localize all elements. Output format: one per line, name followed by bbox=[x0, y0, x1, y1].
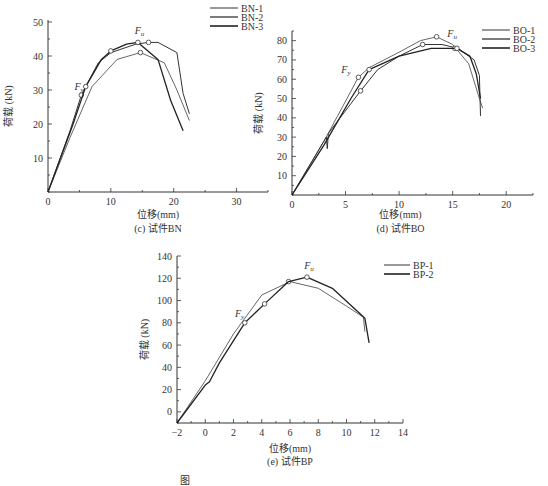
point-marker bbox=[420, 42, 425, 47]
series-bn-3 bbox=[48, 42, 183, 192]
x-tick-label: 20 bbox=[169, 196, 179, 207]
y-axis-title: 荷载 (kN) bbox=[3, 85, 15, 126]
point-marker bbox=[356, 75, 361, 80]
y-tick-label: 20 bbox=[33, 119, 43, 130]
annotation-fy: Fy bbox=[73, 81, 84, 94]
chart-bp: −202468101214020406080100120140位移(mm)荷载 … bbox=[139, 251, 434, 469]
x-tick-label: 15 bbox=[448, 199, 458, 210]
y-tick-label: 100 bbox=[157, 295, 172, 306]
legend-label: BO-3 bbox=[513, 43, 535, 54]
point-marker bbox=[138, 50, 143, 55]
x-tick-label: 12 bbox=[370, 427, 380, 438]
y-tick-label: 30 bbox=[33, 85, 43, 96]
legend-label: BN-3 bbox=[241, 21, 263, 32]
x-tick-label: 10 bbox=[342, 427, 352, 438]
series-bp-2 bbox=[177, 277, 369, 423]
legend-label: BP-2 bbox=[413, 269, 434, 280]
y-tick-label: 50 bbox=[33, 17, 43, 28]
point-marker bbox=[136, 40, 141, 45]
chart-caption: (d) 试件BO bbox=[376, 222, 424, 235]
annotation-fu: Fu bbox=[134, 25, 145, 38]
y-tick-label: 120 bbox=[157, 273, 172, 284]
x-tick-label: 8 bbox=[316, 427, 321, 438]
point-marker bbox=[305, 275, 310, 280]
y-tick-label: 40 bbox=[33, 51, 43, 62]
y-tick-label: 40 bbox=[277, 112, 287, 123]
y-tick-label: 70 bbox=[277, 54, 287, 65]
x-axis-title: 位移(mm) bbox=[269, 442, 311, 455]
x-tick-label: 0 bbox=[46, 196, 51, 207]
figure-canvas: 01020301020304050位移(mm)荷载 (kN)(c) 试件BNBN… bbox=[0, 0, 548, 486]
point-marker bbox=[146, 40, 151, 45]
x-tick-label: 20 bbox=[501, 199, 511, 210]
figure-caption: 图 bbox=[180, 475, 190, 486]
y-tick-label: 60 bbox=[277, 74, 287, 85]
x-tick-label: 30 bbox=[232, 196, 242, 207]
y-tick-label: 40 bbox=[162, 362, 172, 373]
chart-caption: (e) 试件BP bbox=[267, 455, 313, 468]
series-bp-1 bbox=[177, 282, 365, 423]
y-tick-label: 0 bbox=[167, 406, 172, 417]
point-marker bbox=[358, 89, 363, 94]
x-axis-title: 位移(mm) bbox=[137, 208, 179, 221]
series-bo-3 bbox=[292, 48, 481, 195]
y-tick-label: 60 bbox=[162, 340, 172, 351]
y-tick-label: 140 bbox=[157, 251, 172, 262]
y-tick-label: 80 bbox=[277, 35, 287, 46]
series-bn-1 bbox=[48, 53, 189, 192]
y-tick-label: 20 bbox=[277, 151, 287, 162]
x-tick-label: 2 bbox=[231, 427, 236, 438]
point-marker bbox=[367, 67, 372, 72]
point-marker bbox=[434, 34, 439, 39]
x-tick-label: −2 bbox=[172, 427, 183, 438]
y-tick-label: 80 bbox=[162, 317, 172, 328]
chart-bo: 051015201020304050607080位移(mm)荷载 (kN)(d)… bbox=[253, 25, 535, 236]
annotation-fy: Fy bbox=[234, 308, 245, 321]
x-tick-label: 4 bbox=[259, 427, 264, 438]
chart-caption: (c) 试件BN bbox=[134, 222, 182, 235]
y-tick-label: 20 bbox=[162, 384, 172, 395]
point-marker bbox=[455, 46, 460, 51]
annotation-fy: Fy bbox=[340, 64, 351, 77]
x-tick-label: 5 bbox=[343, 199, 348, 210]
chart-bn: 01020301020304050位移(mm)荷载 (kN)(c) 试件BNBN… bbox=[3, 3, 268, 236]
y-axis-title: 荷载 (kN) bbox=[139, 319, 151, 360]
point-marker bbox=[83, 84, 88, 89]
y-axis-title: 荷载 (kN) bbox=[253, 92, 265, 133]
series-bo-1 bbox=[292, 37, 483, 195]
annotation-fu: Fu bbox=[303, 260, 314, 273]
x-axis-title: 位移(mm) bbox=[379, 208, 421, 221]
x-tick-label: 10 bbox=[106, 196, 116, 207]
annotation-fu: Fu bbox=[446, 28, 457, 41]
x-tick-label: 6 bbox=[288, 427, 293, 438]
x-tick-label: 0 bbox=[203, 427, 208, 438]
point-marker bbox=[262, 302, 267, 307]
series-bo-2 bbox=[292, 45, 481, 196]
x-tick-label: 0 bbox=[290, 199, 295, 210]
x-tick-label: 14 bbox=[398, 427, 408, 438]
y-tick-label: 10 bbox=[277, 170, 287, 181]
y-tick-label: 10 bbox=[33, 153, 43, 164]
y-tick-label: 50 bbox=[277, 93, 287, 104]
point-marker bbox=[109, 49, 114, 54]
series-bn-2 bbox=[48, 42, 189, 192]
y-tick-label: 30 bbox=[277, 132, 287, 143]
